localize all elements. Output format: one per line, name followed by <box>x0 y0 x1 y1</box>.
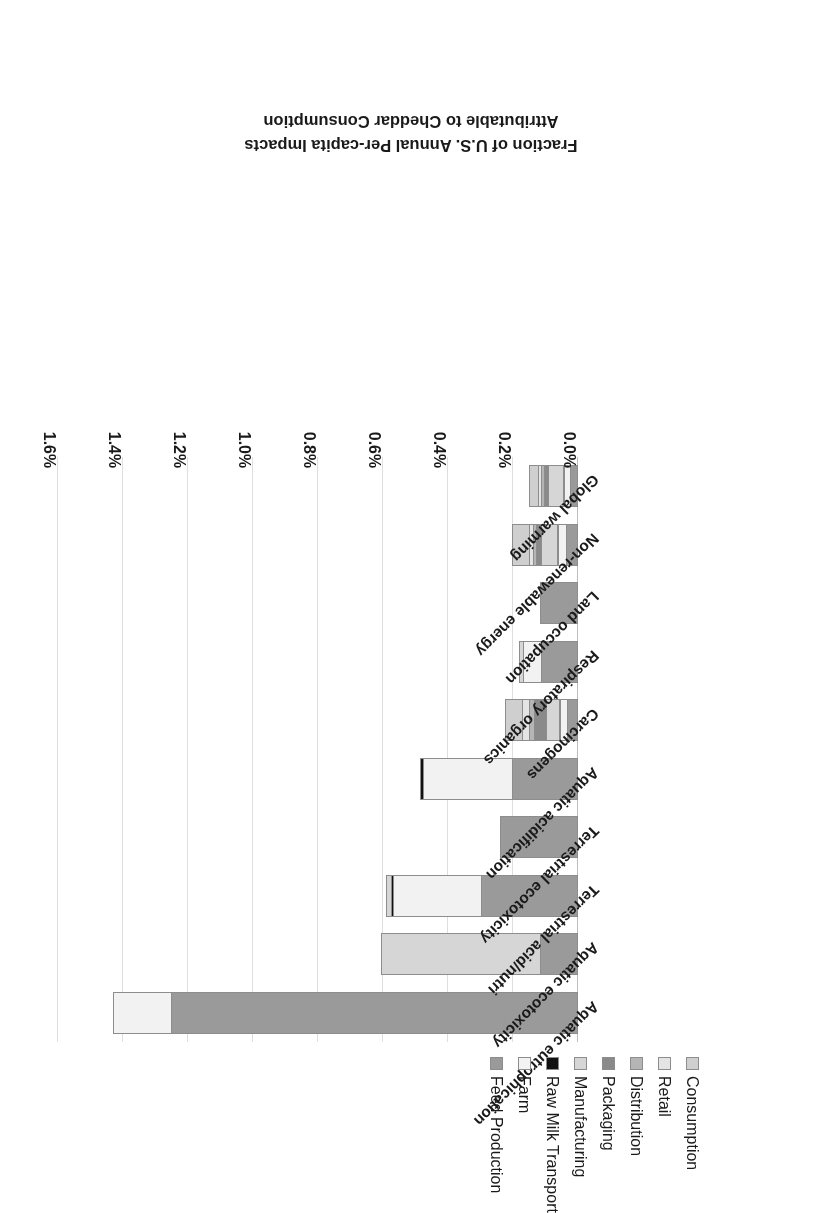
legend-swatch-icon <box>686 1057 699 1070</box>
category-label: Aquatic ecotoxicity <box>489 939 602 1052</box>
legend-swatch-icon <box>658 1057 671 1070</box>
legend-label: Packaging <box>600 1076 617 1151</box>
legend-item-distribution[interactable]: Distribution <box>627 1057 645 1156</box>
legend-item-consumption[interactable]: Consumption <box>683 1057 701 1170</box>
category-label: Terrestrial acid/nutri <box>484 880 602 998</box>
legend-item-farm[interactable]: Farm <box>515 1057 533 1113</box>
legend-item-feed-production[interactable]: Feed Production <box>487 1057 505 1193</box>
legend-item-manufacturing[interactable]: Manufacturing <box>571 1057 589 1177</box>
category-label: Respiratory organics <box>480 646 602 768</box>
legend-label: Feed Production <box>488 1076 505 1193</box>
legend-label: Raw Milk Transport <box>544 1076 561 1213</box>
legend-label: Retail <box>656 1076 673 1117</box>
legend-label: Distribution <box>628 1076 645 1156</box>
legend-label: Farm <box>516 1076 533 1113</box>
legend-label: Consumption <box>684 1076 701 1170</box>
legend-swatch-icon <box>630 1057 643 1070</box>
legend-swatch-icon <box>490 1057 503 1070</box>
legend-label: Manufacturing <box>572 1076 589 1177</box>
category-label: Aquatic acidification <box>482 763 602 883</box>
legend-swatch-icon <box>602 1057 615 1070</box>
legend-item-raw-milk-transport[interactable]: Raw Milk Transport <box>543 1057 561 1213</box>
legend-swatch-icon <box>518 1057 531 1070</box>
legend-item-packaging[interactable]: Packaging <box>599 1057 617 1151</box>
legend-item-retail[interactable]: Retail <box>655 1057 673 1117</box>
legend-swatch-icon <box>546 1057 559 1070</box>
legend-swatch-icon <box>574 1057 587 1070</box>
